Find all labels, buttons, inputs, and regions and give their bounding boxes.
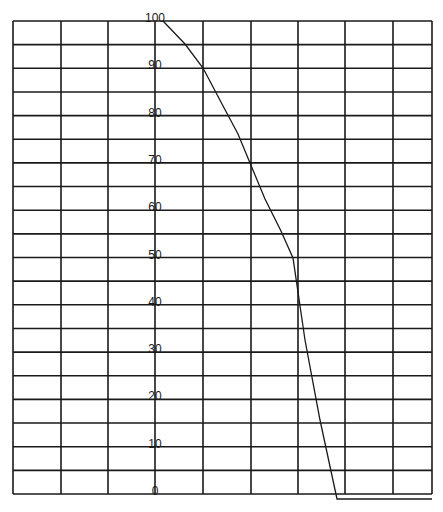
y-tick-label: 70 (148, 153, 162, 167)
y-tick-label: 20 (148, 389, 162, 403)
y-tick-label: 40 (148, 295, 162, 309)
y-tick-label: 30 (148, 342, 162, 356)
y-tick-label: 60 (148, 200, 162, 214)
grid (13, 21, 432, 494)
y-tick-label: 100 (145, 11, 165, 25)
chart: 0102030405060708090100 (0, 0, 443, 512)
y-tick-label: 0 (152, 484, 159, 498)
y-tick-label: 10 (148, 437, 162, 451)
y-tick-label: 80 (148, 106, 162, 120)
y-tick-label: 90 (148, 58, 162, 72)
y-tick-label: 50 (148, 248, 162, 262)
